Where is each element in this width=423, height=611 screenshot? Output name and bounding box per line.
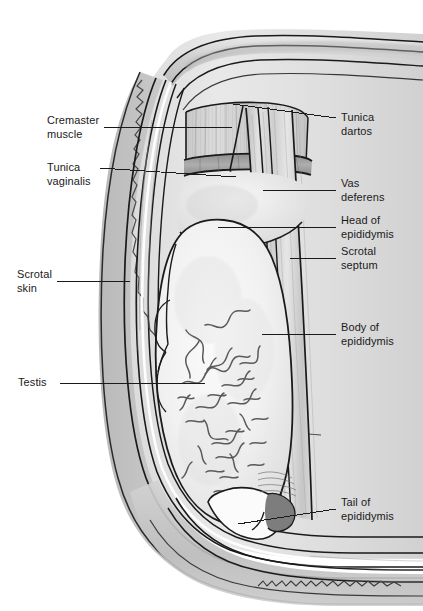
label-scrotal-skin: Scrotal skin: [17, 268, 52, 295]
label-testis: Testis: [18, 376, 47, 390]
label-cremaster-muscle: Cremaster muscle: [47, 114, 99, 141]
label-tunica-dartos: Tunica dartos: [341, 111, 374, 138]
label-body-of-epididymis: Body of epididymis: [341, 321, 394, 348]
anatomy-figure: Cremaster muscle Tunica vaginalis Scrota…: [0, 0, 423, 611]
label-head-of-epididymis: Head of epididymis: [341, 214, 394, 241]
label-scrotal-septum: Scrotal septum: [341, 245, 378, 272]
label-tail-of-epididymis: Tail of epididymis: [341, 496, 394, 523]
label-vas-deferens: Vas deferens: [341, 177, 385, 204]
label-tunica-vaginalis: Tunica vaginalis: [47, 161, 91, 188]
